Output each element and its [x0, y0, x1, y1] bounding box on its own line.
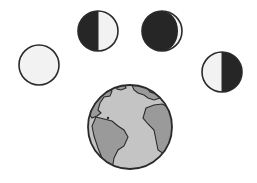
moon-half-dark-left-icon — [78, 11, 118, 51]
earth-icon — [88, 83, 174, 170]
moon-full-icon — [19, 45, 59, 85]
moon-half-dark-right-icon — [202, 52, 242, 92]
moon-crescent-icon — [142, 11, 182, 51]
moon-phase-diagram — [0, 0, 257, 183]
